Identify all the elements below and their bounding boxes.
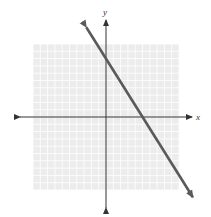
x-axis-label: x bbox=[195, 112, 200, 122]
y-axis-label: y bbox=[102, 7, 107, 17]
coordinate-plane: x y bbox=[0, 0, 211, 217]
